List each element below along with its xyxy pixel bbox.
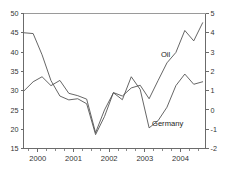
left-axis-tick-label: 15 <box>11 144 19 153</box>
left-axis-tick-label: 20 <box>11 125 19 134</box>
left-axis-tick-label: 25 <box>11 106 19 115</box>
x-axis-ticks <box>29 149 199 153</box>
right-axis-tick-label: 0 <box>211 106 215 115</box>
right-axis-tick-label: 1 <box>211 86 215 95</box>
right-axis-tick-label: 4 <box>211 28 215 37</box>
x-axis-tick-labels: 20002001200220032004 <box>29 154 189 163</box>
right-axis-tick-label: 5 <box>211 9 215 18</box>
right-axis-tick-label: -1 <box>211 125 217 134</box>
right-axis-tick-label: 3 <box>211 48 215 57</box>
x-axis-tick-label: 2003 <box>136 154 153 163</box>
chart-container: 1520253035404550 -2-1012345 200020012002… <box>0 0 229 174</box>
data-series-group <box>24 23 202 135</box>
left-axis-tick-label: 30 <box>11 86 19 95</box>
right-axis-tick-label: 2 <box>211 67 215 76</box>
left-axis-tick-label: 45 <box>11 28 19 37</box>
series-line-oil <box>24 23 202 135</box>
left-axis-tick-label: 35 <box>11 67 19 76</box>
x-axis-tick-label: 2001 <box>65 154 82 163</box>
right-axis-tick-label: -2 <box>211 144 217 153</box>
series-label-oil: Oil <box>161 50 171 59</box>
series-label-germany: Germany <box>152 119 183 128</box>
x-axis-tick-label: 2004 <box>172 154 189 163</box>
line-chart: 1520253035404550 -2-1012345 200020012002… <box>0 0 229 174</box>
left-axis-tick-label: 50 <box>11 9 19 18</box>
x-axis-tick-label: 2002 <box>101 154 118 163</box>
left-axis-tick-labels: 1520253035404550 <box>11 9 19 153</box>
right-axis-tick-labels: -2-1012345 <box>211 9 217 153</box>
x-axis-tick-label: 2000 <box>29 154 46 163</box>
left-axis-tick-label: 40 <box>11 48 19 57</box>
